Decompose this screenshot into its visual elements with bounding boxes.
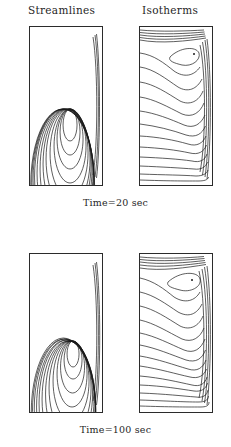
isotherms-contours-t100 [140, 254, 212, 412]
caption-time-20: Time=20 sec [0, 197, 231, 208]
panel-streamlines-t20 [29, 26, 103, 186]
column-headers: Streamlines Isotherms [0, 4, 231, 20]
streamlines-contours-t20 [30, 27, 102, 185]
panel-streamlines-t100 [29, 253, 103, 413]
isotherms-contours-t20 [140, 27, 212, 185]
panel-isotherms-t100 [139, 253, 213, 413]
caption-time-100: Time=100 sec [0, 424, 231, 435]
column-header-streamlines: Streamlines [28, 4, 95, 16]
column-header-isotherms: Isotherms [142, 4, 198, 16]
figure: Streamlines Isotherms [0, 0, 231, 447]
panel-isotherms-t20 [139, 26, 213, 186]
streamlines-contours-t100 [30, 254, 102, 412]
hot-spot-marker-t20 [193, 53, 195, 55]
hot-spot-marker-t100 [191, 279, 193, 281]
